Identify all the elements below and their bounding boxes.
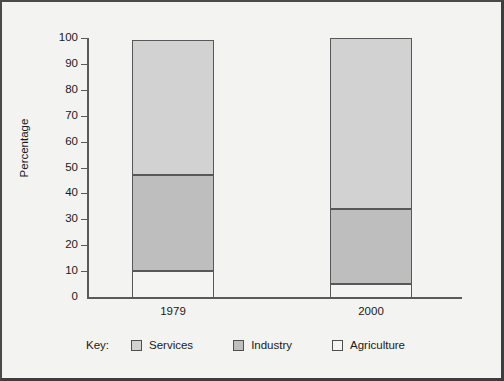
legend-item-agriculture[interactable]: Agriculture (332, 339, 405, 351)
bar-1979-segment-services[interactable] (132, 40, 214, 175)
y-tickmark-40 (81, 193, 87, 194)
y-tickmark-60 (81, 142, 87, 143)
y-tick-label-40: 40 (48, 187, 78, 199)
x-tick-label-2000: 2000 (330, 305, 412, 317)
legend-item-industry[interactable]: Industry (233, 339, 292, 351)
legend-label-industry: Industry (251, 339, 292, 351)
y-tickmark-50 (81, 168, 87, 169)
y-axis-title: Percentage (18, 88, 30, 208)
bar-1979-segment-agriculture[interactable] (132, 271, 214, 298)
y-tick-20: 20 (42, 245, 87, 246)
legend-title: Key: (86, 339, 109, 351)
y-tick-90: 90 (42, 64, 87, 65)
y-tick-label-70: 70 (48, 110, 78, 122)
y-tick-10: 10 (42, 271, 87, 272)
legend-label-services: Services (149, 339, 193, 351)
legend-swatch-services-icon (131, 340, 142, 351)
legend-swatch-agriculture-icon (332, 340, 343, 351)
y-tick-label-50: 50 (48, 162, 78, 174)
y-tick-60: 60 (42, 142, 87, 143)
legend: Key: Services Industry Agriculture (86, 339, 405, 351)
y-tickmark-100 (81, 38, 87, 39)
y-tick-80: 80 (42, 90, 87, 91)
y-tick-label-10: 10 (48, 265, 78, 277)
y-tickmark-90 (81, 64, 87, 65)
bar-2000-segment-industry[interactable] (330, 209, 412, 284)
y-tickmark-30 (81, 219, 87, 220)
y-tick-70: 70 (42, 116, 87, 117)
y-tickmark-80 (81, 90, 87, 91)
y-tick-label-90: 90 (48, 58, 78, 70)
y-axis-line (87, 38, 89, 298)
y-tick-0: 0 (42, 297, 87, 298)
y-tick-label-0: 0 (48, 291, 78, 303)
y-tick-100: 100 (42, 38, 87, 39)
legend-item-services[interactable]: Services (131, 339, 193, 351)
y-tick-label-30: 30 (48, 213, 78, 225)
bar-2000-segment-agriculture[interactable] (330, 284, 412, 298)
plot-area: Percentage 100 90 80 70 60 50 40 (2, 2, 504, 381)
bar-1979-segment-industry[interactable] (132, 175, 214, 271)
legend-label-agriculture: Agriculture (350, 339, 405, 351)
y-tick-50: 50 (42, 168, 87, 169)
chart-figure: Percentage 100 90 80 70 60 50 40 (0, 0, 504, 381)
y-tick-label-60: 60 (48, 136, 78, 148)
y-tickmark-70 (81, 116, 87, 117)
y-tickmark-10 (81, 271, 87, 272)
y-tick-30: 30 (42, 219, 87, 220)
x-tick-label-1979: 1979 (132, 305, 214, 317)
y-tick-label-20: 20 (48, 239, 78, 251)
legend-swatch-industry-icon (233, 340, 244, 351)
y-tick-label-100: 100 (48, 32, 78, 44)
y-tick-label-80: 80 (48, 84, 78, 96)
y-tickmark-20 (81, 245, 87, 246)
y-tick-40: 40 (42, 193, 87, 194)
bar-2000-segment-services[interactable] (330, 38, 412, 209)
